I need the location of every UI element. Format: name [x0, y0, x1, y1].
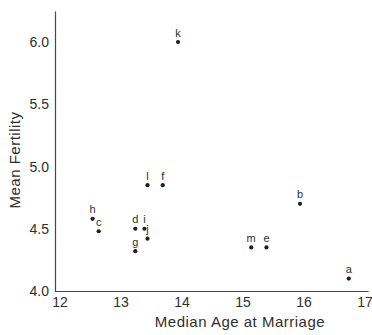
data-point-label: m [247, 232, 256, 244]
axes [56, 12, 369, 292]
y-tick-label: 5.0 [30, 159, 50, 175]
data-point-dot [145, 183, 149, 187]
data-point-dot [249, 245, 253, 249]
data-point-label: f [161, 170, 165, 182]
data-point-dot [97, 229, 101, 233]
data-point-dot [91, 217, 95, 221]
y-tick-label: 6.0 [30, 34, 50, 50]
data-point-dot [161, 183, 165, 187]
fertility-scatter-plot: 4.04.55.05.56.0 121314151617 abcdefghijk… [0, 0, 372, 335]
x-tick-label: 17 [357, 294, 372, 310]
y-axis-title: Mean Fertility [6, 111, 23, 208]
data-point-label: g [132, 236, 138, 248]
x-axis-title: Median Age at Marriage [155, 313, 325, 330]
data-point-label: k [175, 27, 181, 39]
data-point-label: a [346, 263, 353, 275]
data-point-label: j [145, 223, 148, 235]
scatter-figure: 4.04.55.05.56.0 121314151617 abcdefghijk… [0, 0, 372, 335]
data-point-label: d [132, 213, 138, 225]
y-tick-label: 4.5 [30, 221, 50, 237]
data-point-dot [347, 276, 351, 280]
data-points: abcdefghijklm [90, 27, 353, 281]
data-point-dot [264, 245, 268, 249]
x-tick-label: 16 [296, 294, 312, 310]
x-tick-label: 12 [52, 294, 68, 310]
data-point-label: e [263, 232, 269, 244]
data-point-label: c [96, 216, 102, 228]
y-tick-label: 5.5 [30, 96, 50, 112]
data-point-dot [176, 40, 180, 44]
axis-spine [56, 12, 369, 292]
x-tick-label: 14 [174, 294, 190, 310]
data-point-label: l [146, 170, 148, 182]
y-tick-label: 4.0 [30, 283, 50, 299]
y-axis-tick-labels: 4.04.55.05.56.0 [30, 34, 50, 299]
data-point-dot [133, 227, 137, 231]
x-tick-label: 15 [235, 294, 251, 310]
data-point-dot [298, 202, 302, 206]
data-point-dot [145, 237, 149, 241]
x-axis-tick-labels: 121314151617 [52, 294, 372, 310]
data-point-label: b [297, 188, 303, 200]
data-point-dot [133, 249, 137, 253]
data-point-label: h [90, 203, 96, 215]
x-tick-label: 13 [113, 294, 129, 310]
